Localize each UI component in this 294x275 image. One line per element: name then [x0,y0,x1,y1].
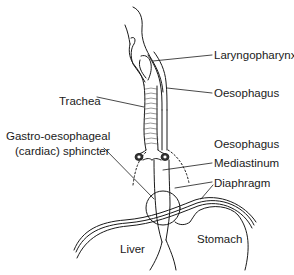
label-sphincter-line1: Gastro-oesophageal [6,130,110,142]
label-laryngopharynx: Laryngopharynx [214,49,294,61]
label-stomach: Stomach [197,233,242,245]
trachea [135,85,169,161]
label-liver: Liver [120,243,145,255]
oesophagus-diagram: Laryngopharynx Oesophagus Trachea Gastro… [0,0,294,275]
label-oesophagus-upper: Oesophagus [214,87,279,99]
label-mediastinum: Mediastinum [214,157,279,169]
pharynx-outline [125,7,163,92]
trachea-rings [144,88,158,144]
label-diaphragm: Diaphragm [214,177,270,189]
label-sphincter-line2: (cardiac) sphincter [15,145,110,157]
liver-edge [150,242,162,270]
label-oesophagus-lower: Oesophagus [214,138,279,150]
leader-lines [97,55,213,199]
label-trachea: Trachea [59,95,101,107]
diaphragm [74,198,256,258]
